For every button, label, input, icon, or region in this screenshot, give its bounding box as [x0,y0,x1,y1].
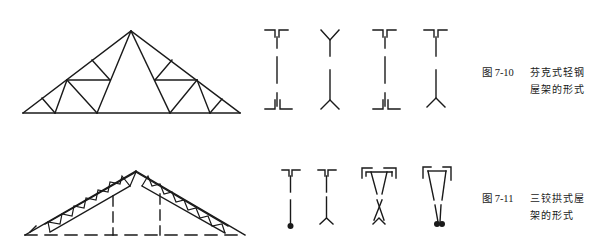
section-type-angle-y [424,30,447,107]
section-type-double-angle-2 [373,30,400,109]
figure-title-line1: 三铰拱式屋 [530,190,585,207]
section-type-double-angle-1 [265,30,292,109]
figure-number: 图 7-11 [482,190,530,207]
section-type-angle-round-bar [282,170,300,229]
section-type-triangular [362,168,396,224]
fink-truss-diagram [23,31,240,113]
section-type-y-tube [321,30,339,109]
figure-title-line2: 架的形式 [482,207,585,224]
section-type-angle-y-2 [318,170,336,224]
section-type-trapezoid [423,167,451,227]
figure-caption-7-10: 图 7-10芬克式轻钢 屋架的形式 [482,64,585,98]
three-hinged-arch-truss-diagram [25,171,245,235]
figure-caption-7-11: 图 7-11三铰拱式屋 架的形式 [482,190,585,224]
figure-number: 图 7-10 [482,64,530,81]
bar-dot-right [439,221,445,227]
figure-title-line1: 芬克式轻钢 [530,64,585,81]
figure-title-line2: 屋架的形式 [482,81,585,98]
round-bar-dot [288,223,294,229]
